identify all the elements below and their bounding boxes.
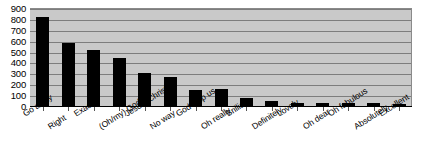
bar (62, 43, 75, 106)
y-axis-tick-label: 700 (11, 24, 26, 35)
y-axis-tick-label: 800 (11, 13, 26, 24)
x-axis-category-label: Right (46, 112, 68, 131)
y-axis-tick-label: 600 (11, 35, 26, 46)
y-axis-tick-label: 400 (11, 57, 26, 68)
x-axis-labels: Go awayRightExactly(Oh/my) GodJesus (Chr… (30, 110, 430, 161)
bar (113, 58, 126, 106)
y-axis-tick-label: 300 (11, 68, 26, 79)
y-axis: 0100200300400500600700800900 (0, 8, 30, 106)
bar-chart: 0100200300400500600700800900 Go awayRigh… (0, 0, 430, 161)
y-axis-tick-label: 100 (11, 90, 26, 101)
bar (215, 89, 228, 106)
y-axis-tick-label: 900 (11, 3, 26, 14)
x-axis-category-label: No way (148, 108, 177, 132)
y-axis-tick-label: 500 (11, 46, 26, 57)
y-axis-tick-label: 200 (11, 79, 26, 90)
